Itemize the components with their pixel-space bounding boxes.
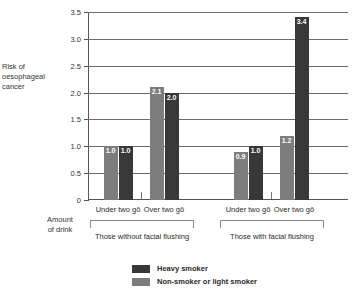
- y-axis-title: Risk of oesophageal cancer: [2, 62, 66, 92]
- y-axis-tick-label: 0: [77, 196, 81, 205]
- y-axis-tick-mark: [84, 200, 88, 201]
- bar-value-label: 1.0: [119, 147, 133, 155]
- x-axis-category-label: Over two gō: [144, 205, 184, 214]
- y-axis-tick-mark: [84, 146, 88, 147]
- bar-value-label: 2.0: [165, 94, 179, 102]
- bar-heavy-smoker: 1.0: [249, 146, 263, 200]
- group-bracket: [90, 220, 194, 228]
- plot-area: 00.51.01.52.02.53.03.51.01.02.12.00.91.0…: [88, 12, 348, 200]
- bar-value-label: 1.2: [280, 137, 294, 145]
- x-axis-category-label: Under two gō: [226, 205, 271, 214]
- x-axis-title: Amount of drink: [32, 215, 88, 235]
- bar-non-or-light-smoker: 0.9: [234, 152, 248, 200]
- bar-heavy-smoker: 2.0: [165, 93, 179, 200]
- y-axis-tick-mark: [84, 173, 88, 174]
- bar-value-label: 1.0: [249, 147, 263, 155]
- legend-label-non-or-light-smoker: Non-smoker or light smoker: [157, 277, 257, 286]
- bar-value-label: 1.0: [104, 147, 118, 155]
- y-axis-tick-mark: [84, 12, 88, 13]
- bar-value-label: 3.4: [295, 18, 309, 26]
- group-bracket-right-tick: [323, 220, 324, 228]
- bar-value-label: 2.1: [150, 88, 164, 96]
- bar-non-or-light-smoker: 1.0: [104, 146, 118, 200]
- x-axis-category-label: Over two gō: [274, 205, 314, 214]
- bar-heavy-smoker: 3.4: [295, 17, 309, 200]
- group-label: Those without facial flushing: [95, 232, 189, 241]
- y-axis-tick-label: 2.5: [71, 61, 81, 70]
- y-axis-title-line-3: cancer: [2, 82, 66, 92]
- category-separator-tick: [271, 192, 272, 199]
- bar-non-or-light-smoker: 2.1: [150, 87, 164, 200]
- legend-swatch-light-icon: [132, 278, 150, 286]
- y-axis-tick-mark: [84, 93, 88, 94]
- group-bracket-left-tick: [220, 220, 221, 228]
- y-axis-tick-mark: [84, 119, 88, 120]
- x-axis-title-line-2: of drink: [32, 225, 88, 235]
- y-axis-tick-label: 3.5: [71, 8, 81, 17]
- legend-item-non-or-light-smoker: Non-smoker or light smoker: [132, 275, 257, 288]
- y-axis-tick-mark: [84, 66, 88, 67]
- group-bracket-left-tick: [90, 220, 91, 228]
- group-label: Those with facial flushing: [230, 232, 314, 241]
- gridline: [88, 12, 348, 13]
- y-axis-tick-label: 3.0: [71, 34, 81, 43]
- esophageal-cancer-risk-bar-chart: Risk of oesophageal cancer 00.51.01.52.0…: [0, 0, 356, 300]
- y-axis-tick-label: 1.0: [71, 142, 81, 151]
- gridline: [88, 39, 348, 40]
- bar-heavy-smoker: 1.0: [119, 146, 133, 200]
- legend-item-heavy-smoker: Heavy smoker: [132, 262, 257, 275]
- y-axis-tick-mark: [84, 39, 88, 40]
- group-bracket-right-tick: [193, 220, 194, 228]
- chart-legend: Heavy smoker Non-smoker or light smoker: [132, 262, 257, 288]
- y-axis-tick-label: 0.5: [71, 169, 81, 178]
- legend-label-heavy-smoker: Heavy smoker: [157, 264, 208, 273]
- gridline: [88, 93, 348, 94]
- x-axis-title-line-1: Amount: [32, 215, 88, 225]
- y-axis-title-line-1: Risk of: [2, 62, 66, 72]
- gridline: [88, 66, 348, 67]
- group-bracket-top: [220, 220, 324, 221]
- y-axis-title-line-2: oesophageal: [2, 72, 66, 82]
- bar-value-label: 0.9: [234, 153, 248, 161]
- category-separator-tick: [141, 192, 142, 199]
- y-axis-tick-label: 2.0: [71, 88, 81, 97]
- gridline: [88, 119, 348, 120]
- y-axis-tick-label: 1.5: [71, 115, 81, 124]
- legend-swatch-dark-icon: [132, 265, 150, 273]
- group-bracket-top: [90, 220, 194, 221]
- x-axis-category-label: Under two gō: [96, 205, 141, 214]
- group-bracket: [220, 220, 324, 228]
- bar-non-or-light-smoker: 1.2: [280, 136, 294, 200]
